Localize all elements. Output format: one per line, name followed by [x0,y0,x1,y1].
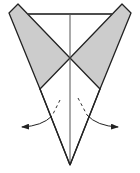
right-fold-arrow-icon [87,115,118,127]
origami-diagram [0,0,140,173]
left-fold-arrow-icon [22,116,52,127]
